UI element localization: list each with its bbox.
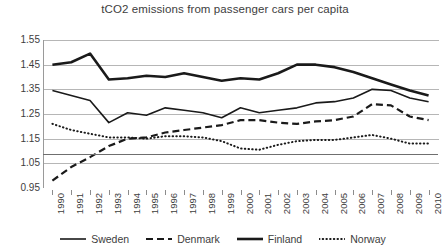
- x-tick-label: 2001: [263, 193, 273, 227]
- legend-swatch-finland: [237, 235, 263, 243]
- legend-swatch-denmark: [146, 235, 172, 243]
- x-tick-label: 1995: [150, 193, 160, 227]
- x-tick-label: 2007: [376, 193, 386, 227]
- x-tick-label: 1994: [132, 193, 142, 227]
- legend-label-denmark: Denmark: [177, 234, 220, 245]
- x-axis-labels: 1990199119921993199419951996199719981999…: [43, 195, 438, 229]
- x-tick-label: 2010: [433, 193, 443, 227]
- x-axis-line: [43, 154, 438, 155]
- x-tick-label: 1992: [94, 193, 104, 227]
- x-tick-label: 1999: [226, 193, 236, 227]
- legend-item-finland[interactable]: Finland: [237, 234, 302, 245]
- legend-swatch-sweden: [60, 235, 86, 243]
- x-tick-label: 2003: [301, 193, 311, 227]
- chart-title: tCO2 emissions from passenger cars per c…: [55, 2, 395, 17]
- x-tick-label: 1993: [113, 193, 123, 227]
- x-tick-label: 1996: [169, 193, 179, 227]
- x-tick-label: 1990: [56, 193, 66, 227]
- legend-swatch-norway: [319, 235, 345, 243]
- legend-label-sweden: Sweden: [91, 234, 129, 245]
- series-line-denmark: [52, 104, 428, 180]
- x-tick-label: 1997: [188, 193, 198, 227]
- x-tick-label: 2004: [320, 193, 330, 227]
- x-tick-label: 1991: [75, 193, 85, 227]
- x-tick-label: 1998: [207, 193, 217, 227]
- series-line-sweden: [52, 89, 428, 122]
- x-tick-label: 2005: [339, 193, 349, 227]
- plot-wrapper: 0.951.051.151.251.351.451.55: [0, 34, 446, 190]
- x-tick-label: 2008: [395, 193, 405, 227]
- legend-item-sweden[interactable]: Sweden: [60, 234, 129, 245]
- x-tick-label: 2000: [245, 193, 255, 227]
- x-tick-label: 2009: [414, 193, 424, 227]
- legend-item-denmark[interactable]: Denmark: [146, 234, 220, 245]
- series-lines: [0, 34, 446, 194]
- legend-label-norway: Norway: [350, 234, 386, 245]
- chart-container: tCO2 emissions from passenger cars per c…: [0, 0, 446, 252]
- x-tick-label: 2002: [282, 193, 292, 227]
- legend-label-finland: Finland: [268, 234, 302, 245]
- legend-item-norway[interactable]: Norway: [319, 234, 386, 245]
- chart-legend: SwedenDenmarkFinlandNorway: [0, 230, 446, 248]
- x-tick-label: 2006: [357, 193, 367, 227]
